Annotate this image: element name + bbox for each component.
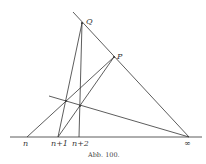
point-intersection-1 xyxy=(65,100,67,102)
label-n-plus-2: n+2 xyxy=(72,139,89,148)
line-q-n2 xyxy=(79,23,82,137)
projective-diagram: Q P n n+1 n+2 ∞ Abb. 100. xyxy=(0,0,206,164)
label-infinity: ∞ xyxy=(184,139,191,148)
transversal-line xyxy=(49,96,189,137)
line-p-n xyxy=(27,57,114,137)
line-q-infinity xyxy=(73,12,189,137)
label-q: Q xyxy=(86,17,93,26)
label-n-plus-1: n+1 xyxy=(51,139,68,148)
point-p xyxy=(113,56,115,58)
point-intersection-2 xyxy=(79,105,81,107)
point-q xyxy=(81,22,83,24)
label-p: P xyxy=(116,52,123,61)
figure-caption: Abb. 100. xyxy=(87,151,120,159)
label-n: n xyxy=(23,139,28,148)
